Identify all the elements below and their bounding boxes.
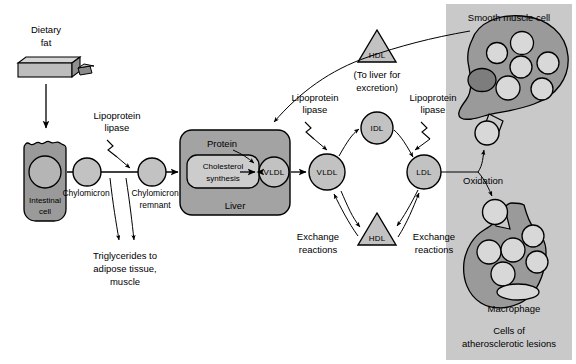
vldl-node-label: VLDL [317, 168, 338, 177]
arc-vldl-to-idl [339, 129, 359, 156]
lipase-zigzag-cycle-right [421, 122, 430, 139]
vacuole [491, 262, 515, 286]
cycle-lipase-right-line1: Lipoprotein [409, 92, 456, 103]
cycle-lipase-left-line2: lipase [303, 104, 328, 115]
hdl-node-bottom-label: HDL [369, 234, 386, 243]
arc-idl-to-ldl [394, 130, 413, 157]
protein-label: Protein [207, 138, 237, 149]
idl-node-label: IDL [370, 124, 383, 133]
vacuole [477, 240, 501, 264]
dietary-fat-label-line1: Dietary [31, 24, 61, 35]
cholesterol-synthesis-line1: Cholesterol [203, 162, 244, 171]
macrophage-label: Macrophage [488, 303, 541, 314]
cycle-lipase-right-line2: lipase [421, 104, 446, 115]
lipase-zigzag-cycle-left [305, 122, 314, 139]
lipase-arrow-cycle-right [415, 139, 430, 150]
exchange-left-line1: Exchange [297, 231, 339, 242]
lipoprotein-lipase-left-line1: Lipoprotein [93, 110, 140, 121]
arrow-triglyceride-release-1 [110, 178, 119, 240]
vacuole [537, 52, 559, 74]
hdl-excretion-note-line1: (To liver for [354, 69, 401, 80]
vacuole [510, 56, 532, 78]
intestinal-cell-nucleus [29, 156, 61, 188]
triglycerides-label-line2: adipose tissue, [93, 263, 156, 274]
chylomicron-remnant-label-line2: remnant [139, 200, 171, 210]
vacuole [522, 225, 544, 247]
arc-vldl-to-hdl [341, 191, 360, 227]
oxidation-label: Oxidation [463, 175, 503, 186]
lipoprotein-metabolism-diagram: Smooth muscle cell Macrophage Cells of a… [0, 0, 576, 364]
ldl-particle-uptake [483, 200, 508, 225]
vacuole [531, 78, 553, 100]
exchange-right-line2: reactions [415, 244, 454, 255]
exchange-right-line1: Exchange [413, 231, 455, 242]
panel-caption-line2: atherosclerotic lesions [462, 338, 556, 349]
chylomicron-remnant-particle [138, 158, 166, 186]
dietary-fat-label-line2: fat [41, 37, 52, 48]
vacuole-dark [468, 69, 496, 92]
chylomicron-particle [73, 158, 101, 186]
chylomicron-remnant-label-line1: Chylomicron [131, 188, 179, 198]
vacuole-elongated [497, 284, 539, 300]
triglycerides-label-line3: muscle [110, 276, 140, 287]
liver-label: Liver [225, 200, 246, 211]
panel-caption-line1: Cells of [493, 325, 525, 336]
lipase-zigzag-left [107, 140, 117, 157]
diagram-canvas: Smooth muscle cell Macrophage Cells of a… [0, 0, 576, 364]
vacuole [511, 32, 534, 55]
intestinal-cell-label-line2: cell [39, 207, 51, 216]
ldl-particle-uptake [475, 121, 499, 145]
liver-vldl-label: VLDL [264, 168, 285, 177]
hdl-excretion-note-line2: excretion) [356, 82, 398, 93]
lipase-arrow-cycle-left [314, 139, 327, 150]
ldl-node-label: LDL [416, 168, 432, 177]
dietary-fat-icon [18, 57, 94, 77]
cholesterol-synthesis-line2: synthesis [206, 174, 239, 183]
vacuole [487, 43, 508, 64]
vacuole [526, 251, 548, 273]
chylomicron-label: Chylomicron [62, 188, 110, 198]
lipoprotein-lipase-left-line2: lipase [105, 122, 130, 133]
vacuole [496, 76, 520, 100]
intestinal-cell-label-line1: Intestinal [29, 196, 61, 205]
vacuole [501, 238, 525, 262]
smooth-muscle-cell-label: Smooth muscle cell [468, 12, 550, 23]
exchange-left-line2: reactions [299, 244, 338, 255]
triglycerides-label-line1: Triglycerides to [93, 250, 157, 261]
arc-hdl-to-vldl [334, 194, 358, 236]
lipase-arrow-left [117, 157, 130, 168]
